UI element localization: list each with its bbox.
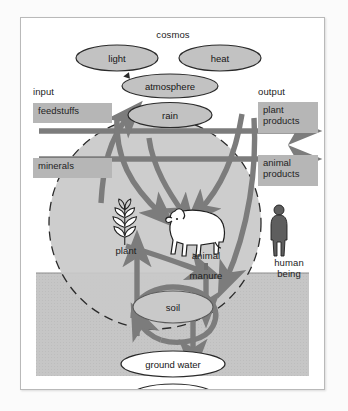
animal-manure-connector — [204, 263, 208, 270]
label-animal: animal — [192, 251, 221, 262]
input-box-minerals: minerals — [33, 158, 112, 178]
label-output: output — [258, 87, 285, 98]
atmosphere-tick — [123, 71, 132, 79]
label-manure: manure — [190, 271, 223, 282]
label-plant: plant — [115, 246, 136, 257]
ellipse-ground-water — [121, 351, 225, 377]
diagram-frame: cosmos light heat atmosphere rain input … — [20, 17, 325, 390]
diagram-canvas: cosmos light heat atmosphere rain input … — [0, 0, 348, 411]
ellipse-rock — [131, 384, 215, 389]
output-box-animal-products: animal products — [258, 155, 318, 186]
output-box-plant-products: plant products — [258, 102, 318, 133]
ellipse-atmosphere — [122, 74, 218, 98]
ellipse-heat — [179, 45, 261, 71]
label-input: input — [33, 87, 54, 98]
human-icon — [271, 205, 287, 256]
ellipse-soil — [133, 291, 213, 323]
ellipse-rain — [128, 103, 212, 128]
input-box-feedstuffs: feedstuffs — [33, 103, 112, 123]
diagram-graphics — [21, 18, 324, 389]
ellipse-light — [76, 45, 158, 71]
label-human-being: human being — [274, 258, 304, 279]
label-cosmos: cosmos — [156, 30, 189, 41]
